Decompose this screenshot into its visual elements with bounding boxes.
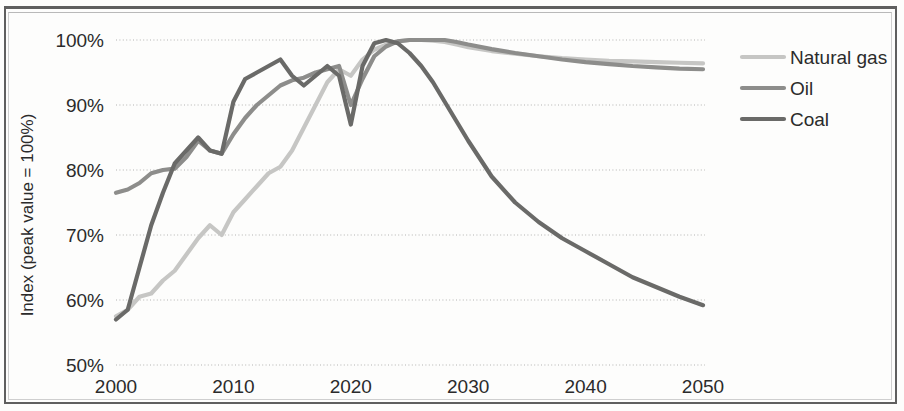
y-tick-label: 60% — [66, 290, 104, 311]
legend-label: Oil — [790, 78, 813, 99]
series-line-natural-gas — [116, 40, 703, 316]
y-tick-label-group: 100%90%80%70%60%50% — [55, 30, 104, 376]
x-tick-label: 2030 — [447, 376, 489, 397]
x-tick-label-group: 200020102020203020402050 — [95, 376, 724, 397]
series-group — [116, 40, 703, 320]
y-tick-label: 100% — [55, 30, 104, 51]
series-line-coal — [116, 40, 703, 320]
x-tick-label: 2000 — [95, 376, 137, 397]
chart-legend: Natural gasOilCoal — [742, 47, 887, 130]
y-tick-label: 80% — [66, 160, 104, 181]
x-tick-label: 2010 — [212, 376, 254, 397]
series-line-oil — [116, 40, 703, 193]
legend-label: Coal — [790, 109, 829, 130]
y-tick-label: 70% — [66, 225, 104, 246]
gridline-group — [116, 40, 705, 365]
x-tick-label: 2050 — [682, 376, 724, 397]
line-chart: 100%90%80%70%60%50% 20002010202020302040… — [0, 0, 904, 411]
y-tick-label: 90% — [66, 95, 104, 116]
legend-label: Natural gas — [790, 47, 887, 68]
y-axis-title: Index (peak value = 100%) — [18, 114, 37, 317]
chart-figure: 100%90%80%70%60%50% 20002010202020302040… — [0, 0, 904, 411]
x-tick-label: 2040 — [564, 376, 606, 397]
y-tick-label: 50% — [66, 355, 104, 376]
x-tick-label: 2020 — [330, 376, 372, 397]
